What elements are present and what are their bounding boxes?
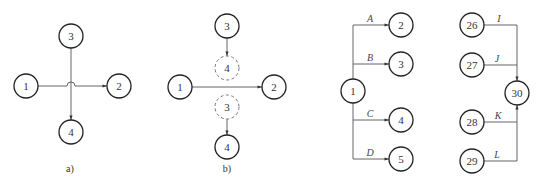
node-b-3: 3: [215, 14, 239, 38]
svg-text:3: 3: [398, 58, 404, 70]
diagram-fan-in: I J K L 26 27 30 28 29: [460, 13, 529, 173]
svg-text:5: 5: [398, 153, 404, 165]
node-b-virtual-4: 4: [215, 56, 239, 80]
node-c-2: 2: [389, 13, 413, 37]
node-b-virtual-3: 3: [215, 95, 239, 119]
caption-b: b): [223, 163, 231, 175]
svg-text:28: 28: [467, 116, 479, 128]
node-c-1: 1: [341, 79, 365, 103]
label-C: C: [367, 108, 374, 119]
node-d-29: 29: [460, 149, 484, 173]
node-a-1: 1: [14, 74, 38, 98]
node-b-4: 4: [215, 135, 239, 159]
svg-text:4: 4: [224, 62, 230, 74]
label-D: D: [365, 147, 374, 158]
node-c-5: 5: [389, 147, 413, 171]
svg-text:4: 4: [224, 141, 230, 153]
svg-text:1: 1: [350, 85, 356, 97]
svg-text:3: 3: [224, 101, 230, 113]
svg-text:3: 3: [224, 20, 230, 32]
node-d-26: 26: [460, 13, 484, 37]
label-I: I: [496, 13, 501, 24]
node-b-2: 2: [262, 75, 286, 99]
diagram-a: 1 2 3 4 a): [14, 24, 131, 175]
svg-text:27: 27: [467, 59, 479, 71]
svg-text:26: 26: [467, 19, 479, 31]
svg-text:1: 1: [177, 81, 183, 93]
node-a-3: 3: [59, 24, 83, 48]
label-J: J: [495, 53, 500, 64]
node-c-4: 4: [389, 108, 413, 132]
label-L: L: [493, 149, 500, 160]
label-A: A: [366, 13, 374, 24]
caption-a: a): [66, 163, 74, 175]
label-K: K: [494, 110, 503, 121]
node-b-1: 1: [168, 75, 192, 99]
edge-1-2-with-hop: [38, 82, 107, 86]
svg-text:2: 2: [116, 80, 122, 92]
diagram-b: 1 2 3 4 3 4 b): [168, 14, 286, 175]
svg-text:4: 4: [398, 114, 404, 126]
svg-text:3: 3: [68, 30, 74, 42]
label-B: B: [367, 52, 373, 63]
node-d-27: 27: [460, 53, 484, 77]
svg-text:4: 4: [68, 126, 74, 138]
node-d-30: 30: [505, 81, 529, 105]
svg-text:29: 29: [467, 155, 479, 167]
node-c-3: 3: [389, 52, 413, 76]
diagram-fan-out: A B C D 1 2 3 4 5: [341, 13, 413, 171]
svg-text:1: 1: [23, 80, 29, 92]
network-diagrams: 1 2 3 4 a) 1 2 3: [0, 0, 539, 190]
svg-text:2: 2: [271, 81, 277, 93]
svg-text:30: 30: [512, 87, 524, 99]
node-a-2: 2: [107, 74, 131, 98]
node-a-4: 4: [59, 120, 83, 144]
svg-text:2: 2: [398, 19, 404, 31]
node-d-28: 28: [460, 110, 484, 134]
